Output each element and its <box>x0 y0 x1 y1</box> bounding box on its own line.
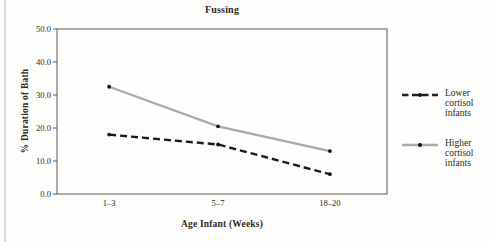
series-line-solid <box>109 87 330 151</box>
solid-line-sample <box>401 141 439 149</box>
legend-item-higher-cortisol: Higher cortisol infants <box>401 138 491 168</box>
data-point-marker <box>107 133 111 137</box>
dashed-line-sample <box>401 91 439 99</box>
data-point-marker <box>107 85 111 89</box>
y-tick-label: 30.0 <box>36 90 51 100</box>
data-point-marker <box>328 149 332 153</box>
legend-item-lower-cortisol: Lower cortisol infants <box>401 88 491 118</box>
marker-dot <box>418 143 422 147</box>
x-tick-label: 1–3 <box>103 198 116 208</box>
y-tick-label: 40.0 <box>36 57 51 67</box>
y-tick-label: 20.0 <box>36 123 51 133</box>
legend-label-higher-cortisol: Higher cortisol infants <box>445 138 491 168</box>
legend-label-lower-cortisol: Lower cortisol infants <box>445 88 491 118</box>
y-tick-label: 0.0 <box>40 189 51 199</box>
y-tick-label: 50.0 <box>36 24 51 34</box>
series-line-dashed <box>109 135 330 175</box>
figure-fussing-chart: Fussing % Duration of Bath 0.010.020.030… <box>0 0 491 242</box>
data-point-marker <box>216 124 220 128</box>
x-tick-label: 5–7 <box>212 198 226 208</box>
legend: Lower cortisol infants Higher cortisol i… <box>401 88 491 168</box>
x-axis-title: Age Infant (Weeks) <box>57 219 387 229</box>
data-point-marker <box>328 172 332 176</box>
x-tick-label: 18–20 <box>319 198 340 208</box>
plot-frame <box>57 29 387 194</box>
data-point-marker <box>216 143 220 147</box>
marker-dot <box>418 93 422 97</box>
y-tick-label: 10.0 <box>36 156 51 166</box>
